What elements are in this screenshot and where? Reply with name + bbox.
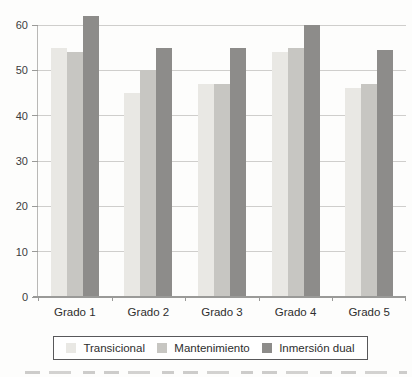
- bar-inmersión-dual: [156, 48, 172, 297]
- bar-inmersión-dual: [377, 50, 393, 297]
- bar-transicional: [272, 52, 288, 297]
- bar-mantenimiento: [140, 70, 156, 297]
- y-axis-tick-label: 30: [0, 154, 28, 168]
- y-axis-tick-label: 0: [0, 290, 28, 304]
- bar-inmersión-dual: [230, 48, 246, 297]
- bar-transicional: [198, 84, 214, 297]
- bar-inmersión-dual: [304, 25, 320, 297]
- bar-group: [332, 25, 406, 297]
- legend-swatch: [66, 343, 76, 353]
- bar-transicional: [124, 93, 140, 297]
- y-axis-tick-label: 10: [0, 245, 28, 259]
- cropped-caption-text: [25, 371, 407, 374]
- legend-item: Inmersión dual: [262, 342, 354, 354]
- bar-transicional: [345, 88, 361, 297]
- x-axis-category-label: Grado 4: [259, 306, 333, 318]
- plot-area: 0102030405060: [38, 25, 406, 297]
- bar-mantenimiento: [67, 52, 83, 297]
- bar-mantenimiento: [361, 84, 377, 297]
- bar-mantenimiento: [288, 48, 304, 297]
- x-axis-category-label: Grado 5: [332, 306, 406, 318]
- x-axis-category-label: Grado 1: [38, 306, 112, 318]
- bar-group: [38, 25, 112, 297]
- legend-item: Transicional: [66, 342, 145, 354]
- legend-swatch: [262, 343, 272, 353]
- legend-swatch: [157, 343, 167, 353]
- bar-mantenimiento: [214, 84, 230, 297]
- x-axis-category-label: Grado 2: [112, 306, 186, 318]
- bar-group: [112, 25, 186, 297]
- x-axis-line: [33, 296, 406, 298]
- bar-group: [185, 25, 259, 297]
- legend: TransicionalMantenimientoInmersión dual: [53, 336, 368, 360]
- legend-label: Inmersión dual: [279, 342, 354, 354]
- bar-groups: [38, 25, 406, 297]
- x-axis-labels: Grado 1Grado 2Grado 3Grado 4Grado 5: [38, 306, 406, 318]
- legend-label: Transicional: [83, 342, 145, 354]
- bar-transicional: [51, 48, 67, 297]
- y-axis-tick-label: 20: [0, 199, 28, 213]
- legend-label: Mantenimiento: [174, 342, 249, 354]
- x-axis-category-label: Grado 3: [185, 306, 259, 318]
- bar-inmersión-dual: [83, 16, 99, 297]
- y-axis-tick-label: 40: [0, 109, 28, 123]
- y-axis-tick-label: 60: [0, 18, 28, 32]
- bar-group: [259, 25, 333, 297]
- legend-item: Mantenimiento: [157, 342, 249, 354]
- y-axis-tick-label: 50: [0, 63, 28, 77]
- chart-figure: 0102030405060 Grado 1Grado 2Grado 3Grado…: [0, 0, 412, 377]
